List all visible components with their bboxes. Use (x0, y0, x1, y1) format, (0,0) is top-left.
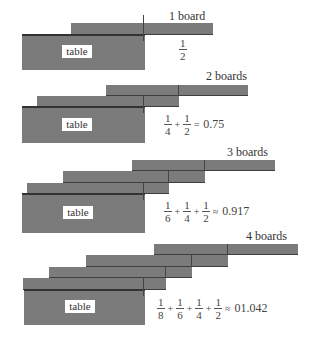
overhang-result: 01.042 (234, 301, 267, 316)
numerator: 1 (183, 199, 191, 212)
overhang-formula: 18+16+14+12≈01.042 (156, 296, 267, 321)
fraction: 16 (164, 199, 172, 224)
denominator: 6 (177, 309, 183, 321)
balance-line (227, 244, 228, 255)
board-block (106, 85, 248, 96)
numerator: 1 (195, 296, 203, 309)
fraction: 12 (179, 37, 187, 62)
board-count-caption: 2 boards (206, 70, 247, 83)
equals-sign: ≈ (225, 303, 231, 314)
fraction: 14 (183, 199, 191, 224)
table-label: table (62, 45, 92, 58)
balance-line (178, 85, 179, 96)
balance-line (143, 15, 144, 41)
overhang-formula: 12 (178, 37, 188, 62)
plus-sign: + (175, 119, 181, 130)
board-block (49, 267, 192, 278)
fraction: 14 (164, 112, 172, 137)
denominator: 8 (158, 309, 164, 321)
board-count-caption: 3 boards (227, 146, 268, 159)
table-top-edge (22, 106, 145, 108)
balance-line (168, 171, 169, 183)
table-top-edge (22, 34, 145, 36)
denominator: 2 (203, 212, 209, 224)
overhang-result: 0.75 (203, 117, 224, 132)
board-count-caption: 4 boards (246, 230, 287, 243)
denominator: 2 (184, 125, 190, 137)
table-label: table (65, 300, 95, 313)
numerator: 1 (176, 296, 184, 309)
balance-line (204, 160, 205, 171)
plus-sign: + (206, 303, 212, 314)
table-label: table (62, 118, 92, 131)
balance-line (191, 255, 192, 267)
equals-sign: = (194, 119, 200, 130)
fraction: 16 (176, 296, 184, 321)
denominator: 4 (165, 125, 171, 137)
denominator: 2 (180, 50, 186, 62)
balance-line (143, 278, 144, 296)
numerator: 1 (179, 37, 187, 50)
plus-sign: + (187, 303, 193, 314)
board-count-caption: 1 board (169, 10, 205, 23)
numerator: 1 (202, 199, 210, 212)
numerator: 1 (157, 296, 165, 309)
plus-sign: + (175, 206, 181, 217)
balance-line (143, 96, 144, 113)
numerator: 1 (183, 112, 191, 125)
overhang-result: 0.917 (222, 204, 249, 219)
plus-sign: + (194, 206, 200, 217)
numerator: 1 (164, 199, 172, 212)
table-top-edge (22, 193, 145, 195)
denominator: 6 (165, 212, 171, 224)
fraction: 12 (214, 296, 222, 321)
table-top-edge (24, 289, 145, 291)
balance-line (165, 267, 166, 278)
fraction: 14 (195, 296, 203, 321)
overhang-formula: 14+12=0.75 (163, 112, 224, 137)
balance-line (143, 183, 144, 200)
numerator: 1 (164, 112, 172, 125)
table-label: table (63, 206, 93, 219)
plus-sign: + (168, 303, 174, 314)
board-block (86, 255, 228, 267)
numerator: 1 (214, 296, 222, 309)
denominator: 4 (184, 212, 190, 224)
board-block (154, 244, 298, 255)
board-block (63, 171, 205, 183)
fraction: 12 (202, 199, 210, 224)
fraction: 18 (157, 296, 165, 321)
denominator: 2 (215, 309, 221, 321)
fraction: 12 (183, 112, 191, 137)
equals-sign: ≈ (213, 206, 219, 217)
overhang-formula: 16+14+12≈0.917 (163, 199, 249, 224)
denominator: 4 (196, 309, 202, 321)
